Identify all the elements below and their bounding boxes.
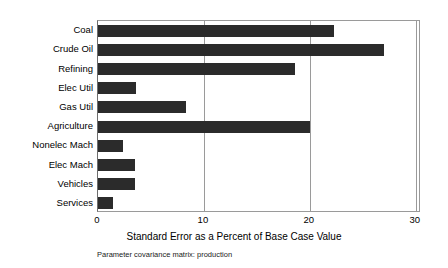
bar-row <box>98 79 419 98</box>
bar-refining[interactable] <box>98 63 295 75</box>
plot-area <box>97 20 420 212</box>
y-label-vehicles: Vehicles <box>0 178 93 189</box>
bar-coal[interactable] <box>98 25 334 37</box>
y-label-elec-util: Elec Util <box>0 82 93 93</box>
y-label-agriculture: Agriculture <box>0 120 93 131</box>
bar-agriculture[interactable] <box>98 121 310 133</box>
x-tick-label-30: 30 <box>409 214 420 225</box>
bars-container <box>98 21 419 211</box>
bar-row <box>98 136 419 155</box>
bar-row <box>98 59 419 78</box>
bar-elec-mach[interactable] <box>98 159 135 171</box>
chart-caption: Parameter covariance matrix: production <box>97 250 232 259</box>
x-axis-tick-labels: 0102030 <box>0 213 448 227</box>
y-axis-category-labels: CoalCrude OilRefiningElec UtilGas UtilAg… <box>0 20 93 212</box>
x-tick-label-20: 20 <box>304 214 315 225</box>
y-label-coal: Coal <box>0 24 93 35</box>
bar-row <box>98 194 419 213</box>
x-tick-label-0: 0 <box>94 214 99 225</box>
bar-vehicles[interactable] <box>98 178 135 190</box>
y-label-crude-oil: Crude Oil <box>0 43 93 54</box>
bar-row <box>98 117 419 136</box>
bar-services[interactable] <box>98 197 113 209</box>
y-label-services: Services <box>0 197 93 208</box>
y-label-nonelec-mach: Nonelec Mach <box>0 139 93 150</box>
x-axis-title: Standard Error as a Percent of Base Case… <box>0 231 448 243</box>
y-label-gas-util: Gas Util <box>0 101 93 112</box>
bar-chart-figure: CoalCrude OilRefiningElec UtilGas UtilAg… <box>0 0 448 268</box>
bar-row <box>98 98 419 117</box>
bar-gas-util[interactable] <box>98 101 186 113</box>
bar-crude-oil[interactable] <box>98 44 384 56</box>
y-label-refining: Refining <box>0 63 93 74</box>
y-label-elec-mach: Elec Mach <box>0 159 93 170</box>
bar-row <box>98 155 419 174</box>
bar-row <box>98 40 419 59</box>
bar-row <box>98 21 419 40</box>
x-tick-label-10: 10 <box>198 214 209 225</box>
bar-nonelec-mach[interactable] <box>98 140 123 152</box>
bar-row <box>98 175 419 194</box>
bar-elec-util[interactable] <box>98 82 136 94</box>
